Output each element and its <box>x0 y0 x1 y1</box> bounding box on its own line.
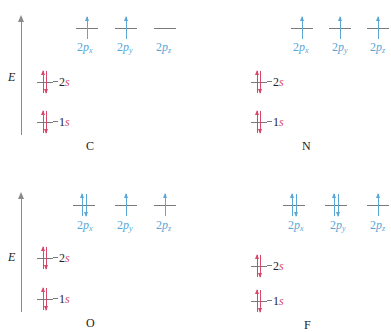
orbital-label-1s: 1s <box>267 115 284 130</box>
orbital-label-2px: 2px <box>77 40 93 55</box>
spin-up-arrow-icon <box>378 194 379 216</box>
spin-up-arrow-icon <box>378 17 379 39</box>
energy-label: E <box>8 70 15 85</box>
spin-up-arrow-icon <box>126 194 127 216</box>
orbital-label-2s: 2s <box>53 251 70 266</box>
orbital-label-2py: 2py <box>117 218 133 233</box>
spin-down-arrow-icon <box>46 288 47 310</box>
spin-up-arrow-icon <box>165 194 166 216</box>
spin-down-arrow-icon <box>46 71 47 93</box>
orbital-1s <box>251 290 267 314</box>
orbital-label-1s: 1s <box>267 294 284 309</box>
orbital-label-2py: 2py <box>332 40 348 55</box>
spin-down-arrow-icon <box>46 247 47 269</box>
orbital-label-2s: 2s <box>53 75 70 90</box>
orbital-label-2s: 2s <box>267 259 284 274</box>
spin-down-arrow-icon <box>338 194 339 216</box>
orbital-label-2pz: 2pz <box>370 218 385 233</box>
orbital-label-2pz: 2pz <box>156 218 171 233</box>
orbital-2py <box>329 17 351 41</box>
spin-down-arrow-icon <box>296 194 297 216</box>
orbital-1s <box>37 288 53 312</box>
orbital-2pz <box>367 17 389 41</box>
orbital-label-1s: 1s <box>53 292 70 307</box>
spin-up-arrow-icon <box>292 194 293 216</box>
orbital-2px <box>76 17 98 41</box>
energy-axis <box>21 20 22 135</box>
orbital-label-2pz: 2pz <box>156 40 171 55</box>
spin-down-arrow-icon <box>86 194 87 216</box>
orbital-2pz <box>154 194 176 218</box>
orbital-label-2px: 2px <box>293 40 309 55</box>
spin-down-arrow-icon <box>260 111 261 133</box>
orbital-2px <box>283 194 305 218</box>
element-label-f: F <box>304 318 311 332</box>
orbital-2py <box>115 194 137 218</box>
spin-down-arrow-icon <box>260 255 261 277</box>
element-label-c: C <box>86 139 94 154</box>
spin-up-arrow-icon <box>334 194 335 216</box>
orbital-label-1s: 1s <box>53 115 70 130</box>
element-label-n: N <box>302 139 311 154</box>
spin-down-arrow-icon <box>46 111 47 133</box>
orbital-label-2s: 2s <box>267 75 284 90</box>
orbital-2px <box>291 17 313 41</box>
orbital-label-2px: 2px <box>288 218 304 233</box>
energy-axis <box>21 197 22 312</box>
orbital-label-2pz: 2pz <box>370 40 385 55</box>
orbital-1s <box>251 111 267 135</box>
orbital-2s <box>37 247 53 271</box>
orbital-2s <box>251 71 267 95</box>
spin-up-arrow-icon <box>87 17 88 39</box>
orbital-label-2py: 2py <box>330 218 346 233</box>
orbital-2py <box>325 194 347 218</box>
orbital-2s <box>37 71 53 95</box>
axis-arrow-icon <box>18 192 24 199</box>
spin-up-arrow-icon <box>82 194 83 216</box>
energy-label: E <box>8 250 15 265</box>
orbital-label-2px: 2px <box>77 218 93 233</box>
spin-down-arrow-icon <box>260 71 261 93</box>
spin-up-arrow-icon <box>126 17 127 39</box>
spin-down-arrow-icon <box>260 290 261 312</box>
spin-up-arrow-icon <box>302 17 303 39</box>
orbital-2py <box>115 17 137 41</box>
axis-arrow-icon <box>18 15 24 22</box>
orbital-2pz <box>154 17 176 41</box>
orbital-label-2py: 2py <box>117 40 133 55</box>
element-label-o: O <box>86 316 95 331</box>
orbital-1s <box>37 111 53 135</box>
orbital-2px <box>73 194 95 218</box>
orbital-2pz <box>367 194 389 218</box>
spin-up-arrow-icon <box>340 17 341 39</box>
orbital-2s <box>251 255 267 279</box>
